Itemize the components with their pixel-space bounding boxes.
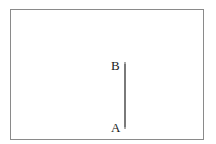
point-a-label: A xyxy=(111,121,120,134)
point-b-label: B xyxy=(111,59,120,72)
diagram-frame xyxy=(10,9,204,140)
point-a-marker xyxy=(124,127,126,129)
point-b-marker xyxy=(124,62,126,64)
segment-ab xyxy=(124,63,126,129)
